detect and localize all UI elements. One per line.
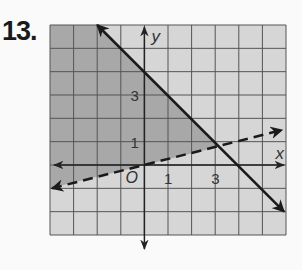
x-tick-label-3: 3: [211, 170, 219, 187]
inequality-graph: yxO1313: [0, 0, 302, 270]
y-tick-label-3: 3: [130, 87, 138, 104]
y-axis-label: y: [150, 27, 161, 46]
y-tick-label-1: 1: [130, 134, 138, 151]
origin-label: O: [125, 169, 137, 186]
x-tick-label-1: 1: [164, 170, 172, 187]
x-axis-label: x: [274, 144, 284, 163]
